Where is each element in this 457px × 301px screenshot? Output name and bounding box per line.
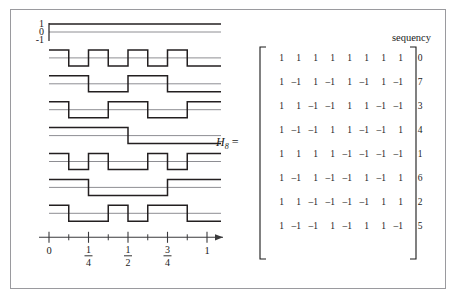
x-axis-tick-label: 0	[46, 245, 51, 256]
matrix-cell: –1	[369, 118, 386, 142]
hadamard-matrix: 1111111101–11–11–11–1711–1–111–1–131–1–1…	[258, 46, 448, 260]
matrix-cell: 1	[369, 190, 386, 214]
matrix-row-sequency: 6	[403, 166, 428, 190]
walsh-waveform-plot: 10-1 01412341	[11, 10, 241, 288]
matrix-cell: 1	[369, 214, 386, 238]
matrix-row: 11–1–1–1–1112	[267, 190, 428, 214]
x-axis-tick-label: 1	[204, 245, 209, 256]
matrix-row: 11–1–111–1–13	[267, 94, 428, 118]
fraction-numerator: 1	[86, 244, 91, 255]
matrix-row: 1–11–1–11–116	[267, 166, 428, 190]
matrix-cell: 1	[369, 70, 386, 94]
matrix-cell: –1	[335, 214, 352, 238]
matrix-cell: 1	[352, 214, 369, 238]
matrix-cell: 1	[318, 46, 335, 70]
matrix-cell: –1	[335, 142, 352, 166]
matrix-cell: 1	[267, 190, 284, 214]
x-axis-tick-label: 34	[164, 244, 172, 268]
matrix-row: 1–11–11–11–17	[267, 70, 428, 94]
matrix-cell: 1	[301, 46, 318, 70]
matrix-row: 1–1–111–1–114	[267, 118, 428, 142]
matrix-cell: 1	[267, 142, 284, 166]
matrix-cell: –1	[284, 118, 301, 142]
matrix-row-sequency: 4	[403, 118, 428, 142]
fraction-numerator: 3	[165, 244, 170, 255]
matrix-cell: 1	[352, 94, 369, 118]
matrix-cell: –1	[386, 70, 403, 94]
fraction-numerator: 1	[126, 244, 131, 255]
matrix-cell: –1	[386, 142, 403, 166]
matrix-cell: –1	[335, 166, 352, 190]
matrix-cell: –1	[318, 190, 335, 214]
matrix-cell: 1	[267, 94, 284, 118]
matrix-cell: –1	[301, 94, 318, 118]
cut-off-text-above-figure	[0, 0, 457, 7]
matrix-cell: 1	[267, 214, 284, 238]
sequency-column-header: sequency	[392, 32, 431, 43]
matrix-cell: 1	[369, 46, 386, 70]
waveform-row	[49, 128, 221, 144]
matrix-row-sequency: 5	[403, 214, 428, 238]
waveform-row	[49, 50, 221, 66]
waveform-row	[49, 76, 221, 92]
y-axis-labels: 10-1	[36, 18, 49, 45]
matrix-cell: 1	[335, 46, 352, 70]
matrix-cell: –1	[318, 166, 335, 190]
waveform-row	[49, 205, 221, 221]
matrix-cell: –1	[318, 70, 335, 94]
fraction-denominator: 4	[165, 257, 170, 268]
matrix-cell: –1	[335, 190, 352, 214]
matrix-cell: –1	[352, 70, 369, 94]
matrix-body: 1111111101–11–11–11–1711–1–111–1–131–1–1…	[267, 46, 428, 238]
figure-inner: 10-1 01412341 H8 = sequency 1111111101–1…	[11, 10, 445, 288]
matrix-cell: 1	[386, 46, 403, 70]
matrix-label-subscript: 8	[225, 142, 229, 151]
waveform-row	[49, 24, 221, 32]
x-axis-tick-label: 12	[124, 244, 132, 268]
x-axis-tick-label: 14	[85, 244, 93, 268]
matrix-row: 1111–1–1–1–11	[267, 142, 428, 166]
matrix-cell: –1	[369, 94, 386, 118]
matrix-cell: –1	[301, 214, 318, 238]
matrix-cell: –1	[369, 166, 386, 190]
matrix-label: H8 =	[216, 135, 238, 151]
matrix-cell: 1	[284, 142, 301, 166]
matrix-cell: 1	[386, 166, 403, 190]
matrix-row-sequency: 0	[403, 46, 428, 70]
matrix-cell: –1	[284, 70, 301, 94]
matrix-cell: 1	[301, 166, 318, 190]
matrix-cell: –1	[301, 190, 318, 214]
matrix-cell: 1	[386, 118, 403, 142]
matrix-cell: 1	[267, 118, 284, 142]
matrix-cell: –1	[369, 142, 386, 166]
matrix-cell: –1	[284, 214, 301, 238]
matrix-row: 111111110	[267, 46, 428, 70]
matrix-row-sequency: 7	[403, 70, 428, 94]
waveform-rows	[49, 24, 221, 221]
matrix-cell: –1	[352, 118, 369, 142]
matrix-label-letter: H	[216, 135, 225, 149]
matrix-cell: 1	[318, 214, 335, 238]
matrix-cell: 1	[335, 70, 352, 94]
matrix-equals-sign: =	[232, 135, 239, 149]
matrix-cell: 1	[352, 166, 369, 190]
matrix-cell: 1	[335, 94, 352, 118]
matrix-cell: 1	[301, 70, 318, 94]
waveform-row	[49, 179, 221, 195]
matrix-cell: –1	[352, 142, 369, 166]
matrix-table: 1111111101–11–11–11–1711–1–111–1–131–1–1…	[267, 46, 428, 238]
matrix-cell: 1	[386, 190, 403, 214]
matrix-cell: –1	[352, 190, 369, 214]
x-axis-arrow-icon	[215, 234, 223, 240]
figure-container: 10-1 01412341 H8 = sequency 1111111101–1…	[10, 9, 446, 289]
matrix-cell: –1	[386, 94, 403, 118]
waveform-row	[49, 102, 221, 118]
matrix-row-sequency: 3	[403, 94, 428, 118]
matrix-cell: –1	[318, 94, 335, 118]
fraction-denominator: 2	[126, 257, 131, 268]
matrix-cell: –1	[284, 166, 301, 190]
matrix-cell: 1	[284, 190, 301, 214]
matrix-row-sequency: 1	[403, 142, 428, 166]
matrix-cell: 1	[267, 46, 284, 70]
matrix-cell: 1	[301, 142, 318, 166]
